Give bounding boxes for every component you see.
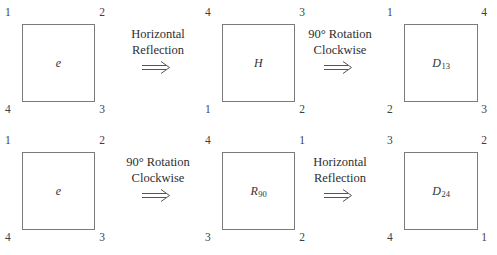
- operation-horizontal-reflection-bottom: Horizontal Reflection: [292, 154, 388, 202]
- square-center-label-base: D: [432, 184, 441, 199]
- transformation-row-bottom: 1 2 3 4 e 90° Rotation Clockwise 4 1 2 3: [0, 128, 497, 255]
- square-center-label-base: e: [56, 184, 62, 199]
- corner-label-bottom-left: 2: [387, 103, 401, 115]
- square-center-label-subscript: 13: [441, 61, 450, 71]
- corner-label-bottom-left: 1: [205, 103, 219, 115]
- operation-rotation-top: 90° Rotation Clockwise: [292, 26, 388, 74]
- corner-label-top-right: 2: [91, 6, 105, 18]
- double-right-arrow-icon: [292, 61, 388, 74]
- square-center-label-subscript: 24: [441, 189, 450, 199]
- corner-label-bottom-left: 4: [5, 231, 19, 243]
- corner-label-bottom-right: 2: [291, 103, 305, 115]
- corner-label-bottom-left: 3: [205, 231, 219, 243]
- square-cell-D13-top: 1 4 3 2 D13: [380, 0, 497, 128]
- square-center-label: H: [222, 24, 295, 102]
- corner-label-top-left: 1: [387, 6, 401, 18]
- corner-label-bottom-left: 4: [387, 231, 401, 243]
- corner-label-top-right: 1: [291, 134, 305, 146]
- corner-label-bottom-right: 1: [473, 231, 487, 243]
- operation-line-2: Reflection: [110, 42, 206, 58]
- square-cell-D24-bottom: 3 2 1 4 D24: [380, 128, 497, 255]
- corner-label-top-right: 2: [473, 134, 487, 146]
- corner-label-top-right: 2: [91, 134, 105, 146]
- square-center-label: e: [22, 24, 95, 102]
- operation-line-1: 90° Rotation: [292, 26, 388, 42]
- square-center-label: D13: [404, 24, 478, 102]
- operation-line-2: Reflection: [292, 170, 388, 186]
- corner-label-top-left: 4: [205, 6, 219, 18]
- corner-label-bottom-right: 3: [473, 103, 487, 115]
- operation-rotation-bottom: 90° Rotation Clockwise: [110, 154, 206, 202]
- operation-line-1: 90° Rotation: [110, 154, 206, 170]
- corner-label-bottom-right: 2: [291, 231, 305, 243]
- square-center-label-base: R: [250, 184, 258, 199]
- corner-label-top-right: 4: [473, 6, 487, 18]
- corner-label-bottom-right: 3: [91, 231, 105, 243]
- operation-line-2: Clockwise: [110, 170, 206, 186]
- square-center-label-base: H: [254, 56, 263, 71]
- square-center-label-subscript: 90: [258, 189, 267, 199]
- corner-label-top-right: 3: [291, 6, 305, 18]
- operation-line-1: Horizontal: [110, 26, 206, 42]
- square-center-label: R90: [222, 152, 295, 230]
- operation-line-2: Clockwise: [292, 42, 388, 58]
- double-right-arrow-icon: [110, 189, 206, 202]
- operation-line-1: Horizontal: [292, 154, 388, 170]
- corner-label-bottom-left: 4: [5, 103, 19, 115]
- square-cell-identity-top: 1 2 3 4 e: [0, 0, 120, 128]
- corner-label-top-left: 3: [387, 134, 401, 146]
- symmetry-transformation-diagram: 1 2 3 4 e Horizontal Reflection 4 3 2 1: [0, 0, 497, 255]
- square-center-label: D24: [404, 152, 478, 230]
- corner-label-top-left: 1: [5, 134, 19, 146]
- square-center-label-base: e: [56, 56, 62, 71]
- transformation-row-top: 1 2 3 4 e Horizontal Reflection 4 3 2 1: [0, 0, 497, 128]
- square-center-label: e: [22, 152, 95, 230]
- operation-horizontal-reflection-top: Horizontal Reflection: [110, 26, 206, 74]
- square-cell-identity-bottom: 1 2 3 4 e: [0, 128, 120, 255]
- double-right-arrow-icon: [110, 61, 206, 74]
- corner-label-top-left: 1: [5, 6, 19, 18]
- corner-label-top-left: 4: [205, 134, 219, 146]
- corner-label-bottom-right: 3: [91, 103, 105, 115]
- square-center-label-base: D: [432, 56, 441, 71]
- double-right-arrow-icon: [292, 189, 388, 202]
